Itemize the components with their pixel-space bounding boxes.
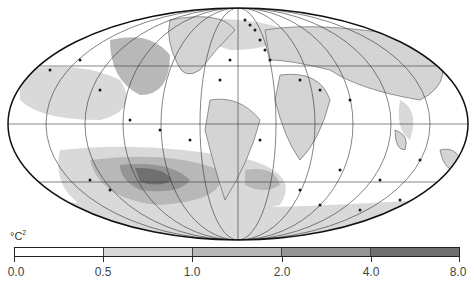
tick-mark: [192, 257, 193, 262]
tick-label: 0.0: [8, 265, 25, 279]
tick-mark: [459, 257, 460, 262]
tick-label: 0.5: [95, 265, 112, 279]
world-map: [0, 0, 474, 245]
tick-label: 1.0: [184, 265, 201, 279]
legend-unit: °C2: [10, 229, 26, 242]
colorbar: [14, 247, 460, 257]
tick-label: 2.0: [274, 265, 291, 279]
tick-mark: [371, 257, 372, 262]
tick-mark: [103, 257, 104, 262]
colorbar-bin-5: [371, 248, 459, 256]
colorbar-bin-2: [104, 248, 193, 256]
colorbar-bin-4: [282, 248, 371, 256]
tick-label: 8.0: [450, 265, 467, 279]
tick-label: 4.0: [363, 265, 380, 279]
tick-mark: [14, 257, 15, 262]
colorbar-bin-3: [193, 248, 282, 256]
tick-mark: [282, 257, 283, 262]
colorbar-bin-1: [15, 248, 104, 256]
